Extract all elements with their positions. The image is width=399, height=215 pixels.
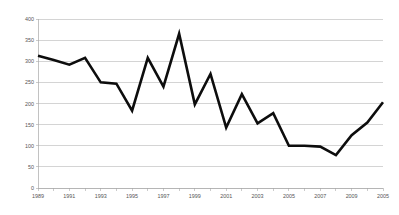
xtick-labels-group: 1989199119931995199719992001200320052007… [32, 193, 389, 199]
chart-canvas: 050100150200250300350400 198919911993199… [0, 0, 399, 215]
ytick-label: 350 [25, 37, 34, 43]
tickmarks-group [36, 19, 384, 191]
xtick-label: 2007 [314, 193, 326, 199]
xtick-label: 1991 [63, 193, 75, 199]
xtick-label: 1993 [95, 193, 107, 199]
ytick-label: 250 [25, 79, 34, 85]
xtick-label: 1989 [32, 193, 44, 199]
xtick-label: 2001 [220, 193, 232, 199]
ytick-label: 50 [28, 164, 34, 170]
ytick-label: 200 [25, 101, 34, 107]
ytick-label: 0 [31, 185, 34, 191]
data-line-series-1 [38, 34, 383, 155]
gridlines-group [38, 19, 383, 188]
xtick-label: 1999 [189, 193, 201, 199]
ytick-label: 150 [25, 122, 34, 128]
ytick-labels-group: 050100150200250300350400 [25, 16, 34, 191]
xtick-label: 1995 [126, 193, 138, 199]
ytick-label: 300 [25, 58, 34, 64]
xtick-label: 2005 [283, 193, 295, 199]
xtick-label: 1997 [157, 193, 169, 199]
ytick-label: 400 [25, 16, 34, 22]
line-chart: 050100150200250300350400 198919911993199… [0, 0, 399, 215]
xtick-label: 2009 [346, 193, 358, 199]
ytick-label: 100 [25, 143, 34, 149]
xtick-label: 2005 [377, 193, 389, 199]
data-series-group [38, 34, 383, 155]
xtick-label: 2003 [252, 193, 264, 199]
